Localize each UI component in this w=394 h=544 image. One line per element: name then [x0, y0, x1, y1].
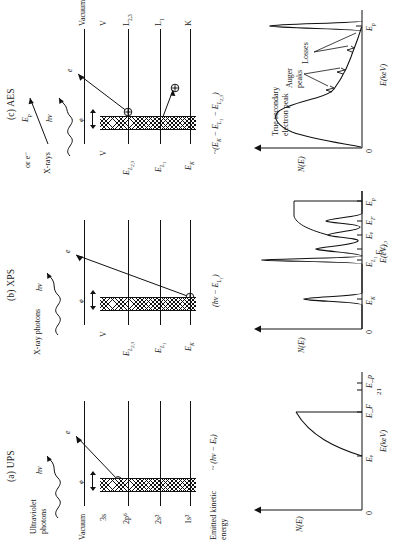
xps-kinetic-value: (hν − EL1): [212, 274, 224, 307]
xps-level-line-l23: [128, 220, 129, 325]
aes-level-label-l1-left: EL1: [155, 162, 167, 172]
aes-solid-band: [100, 116, 196, 130]
aes-level-label-valence-left: V: [100, 150, 108, 156]
ups-work-function-label: ϕ: [78, 480, 85, 484]
ups-level-line-2p6: [128, 401, 129, 506]
figure-root: (a) UPS Ultraviolet photons hν e ϕ: [0, 0, 394, 544]
aes-work-function-arrow: [92, 110, 93, 128]
xps-work-function-label: ϕ: [78, 299, 85, 303]
xps-spectrum-x-axis-label: E(eV): [380, 244, 388, 263]
aes-annotation-auger-line2: peaks: [296, 70, 304, 88]
xps-spectrum-y-axis-label: N(E): [298, 337, 306, 353]
aes-spectrum-tick-ep: Ep: [366, 23, 376, 31]
xps-level-label-k: EK: [185, 342, 195, 351]
panel-xps: (b) XPS X-ray photons hν e ϕ V EL2,3 EL1…: [0, 178, 394, 359]
xps-spectrum-tick-ef: EF: [366, 217, 376, 225]
aes-level-line-vacuum: [84, 29, 85, 144]
aes-annotation-losses: Losses: [302, 42, 310, 64]
aes-level-label-vacuum-right: Vacuum: [79, 0, 87, 26]
ups-level-label-3s: 3s: [100, 514, 108, 521]
xps-level-label-l1: EL1: [155, 343, 167, 353]
ups-spectrum-y-axis-label: N(E): [296, 516, 304, 532]
ups-kinetic-caption-line1: Emitted kinetic: [210, 491, 218, 540]
aes-spectrum-x-axis-label: E(keV): [380, 64, 388, 86]
ups-kinetic-caption-line2: energy: [220, 518, 228, 540]
xps-level-label-valence: V: [100, 331, 108, 337]
aes-level-label-l23-right: L2,3: [123, 14, 133, 26]
xps-spectrum-tick-el1: EL1: [366, 257, 378, 267]
ups-level-label-1s2: 1s²: [185, 514, 193, 524]
ups-kinetic-value: ~ (hν − Eᵥ): [210, 434, 218, 470]
panel-ups: (a) UPS Ultraviolet photons hν e ϕ: [0, 359, 394, 540]
aes-level-line-k: [190, 29, 191, 144]
aes-annotation-true-secondary-line1: True secondary: [272, 87, 280, 136]
ups-solid-band: [100, 478, 196, 492]
xps-solid-band: [100, 297, 196, 311]
aes-work-function-label: ϕ: [78, 118, 85, 122]
xps-spectrum-tick-ep: Ep: [366, 198, 376, 206]
xps-level-line-vacuum: [84, 220, 85, 325]
aes-level-label-valence-right: V: [100, 20, 108, 26]
ups-level-line-vacuum: [84, 401, 85, 506]
ups-emitted-electron-label: e: [64, 430, 72, 434]
aes-annotation-auger-line1: Auger: [286, 68, 294, 88]
xps-spectrum-tick-ev: Eᵥ: [366, 232, 374, 239]
ups-spectrum-tick-21: 21: [376, 388, 383, 395]
ups-level-line-1s2: [190, 401, 191, 506]
aes-level-label-l23-left: EL2,3: [123, 161, 135, 175]
panel-aes: (c) AES X-rays or e⁻ hν Ep: [0, 0, 394, 178]
xps-spectrum-tick-ek: EK: [366, 296, 376, 305]
ups-level-line-2s2: [160, 401, 161, 506]
aes-spectrum-y-axis-label: N(E): [298, 156, 306, 172]
ups-spectrum-tick-ep: E_p: [366, 375, 374, 388]
aes-level-label-l1-right: L1: [155, 18, 165, 26]
ups-spectrum-x-axis-label: E(keV): [380, 430, 388, 452]
xps-emitted-electron-label: e: [64, 249, 72, 253]
ups-level-label-2p6: 2p⁶: [123, 513, 131, 524]
xps-level-line-k: [190, 220, 191, 325]
ups-level-label-vacuum: Vacuum: [79, 514, 87, 540]
aes-level-line-l1: [160, 29, 161, 144]
ups-work-function-arrow: [92, 472, 93, 490]
ups-spectrum-tick-ev: Eᵥ: [366, 455, 374, 462]
aes-annotation-true-secondary-line2: electron peak: [282, 93, 290, 136]
aes-level-label-k-left: EK: [185, 161, 195, 170]
xps-spectrum-tick-0: 0: [366, 330, 374, 334]
ups-level-label-2s2: 2s²: [155, 514, 163, 524]
ups-spectrum-tick-ef: E_F: [366, 404, 374, 418]
xps-level-line-l1: [160, 220, 161, 325]
aes-level-line-l23: [128, 29, 129, 144]
xps-level-label-l23: EL2,3: [123, 342, 135, 356]
aes-auger-energy-label: ~(EK − EL1 − EL2,3): [212, 92, 224, 154]
ups-spectrum-tick-0: 0: [366, 511, 374, 515]
xps-work-function-arrow: [92, 291, 93, 309]
aes-spectrum-tick-0: 0: [366, 149, 374, 153]
figure-canvas: (a) UPS Ultraviolet photons hν e ϕ: [0, 0, 394, 544]
aes-emitted-electron-label: e: [66, 68, 74, 72]
aes-level-label-k-right: K: [185, 20, 193, 26]
